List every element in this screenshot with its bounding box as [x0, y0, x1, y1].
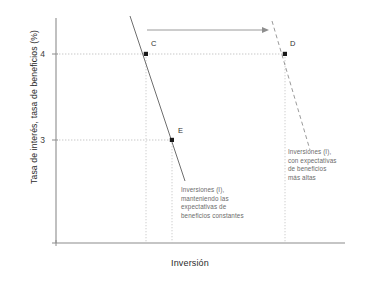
- chart-canvas: 4 3 C E D: [0, 0, 378, 283]
- data-point-d: [283, 52, 287, 56]
- investment-curve-constant: [130, 16, 185, 181]
- annotation-left-curve: Inversiones (I), manteniendo las expecta…: [181, 186, 267, 220]
- chart-figure: 4 3 C E D Tasa de interés, tasa de benef…: [0, 0, 378, 283]
- data-point-c: [144, 52, 148, 56]
- data-point-e: [170, 138, 174, 142]
- y-tick-label-3: 3: [40, 135, 45, 145]
- shift-arrow-head-icon: [262, 27, 269, 33]
- x-axis-title: Inversión: [130, 252, 250, 270]
- point-label-e: E: [178, 126, 183, 135]
- point-label-d: D: [290, 39, 296, 48]
- y-tick-label-4: 4: [40, 49, 45, 59]
- point-label-c: C: [151, 39, 157, 48]
- x-axis-title-text: Inversión: [171, 258, 209, 268]
- y-axis-title-text: Tasa de interés, tasa de beneficios (%): [29, 30, 39, 184]
- annotation-right-curve: Inversiones (I), con expectativas de ben…: [288, 148, 366, 182]
- y-axis-title: Tasa de interés, tasa de beneficios (%): [23, 12, 41, 202]
